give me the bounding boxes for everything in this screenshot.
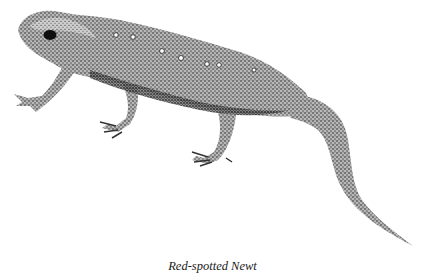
newt-illustration (0, 0, 425, 280)
newt-hind-leg (192, 112, 236, 164)
illustration-figure (0, 0, 425, 280)
newt-eye (44, 30, 57, 40)
newt-tail (290, 95, 413, 246)
figure-caption: Red-spotted Newt (0, 259, 425, 274)
